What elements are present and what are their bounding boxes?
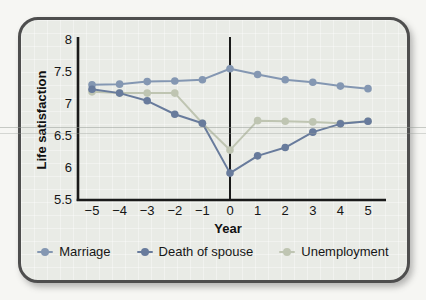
y-tick-label: 8 — [38, 33, 72, 47]
series-marriage-point — [171, 77, 179, 85]
series-marriage-point — [337, 82, 345, 90]
x-tick-label: −5 — [78, 204, 106, 218]
series-unemployment-point — [171, 89, 179, 97]
legend-item-death-of-spouse: Death of spouse — [137, 244, 254, 260]
series-marriage-point — [199, 76, 207, 84]
series-death-of-spouse-point — [88, 85, 96, 93]
unemployment-line-marker-icon — [279, 251, 295, 253]
x-tick-label: 1 — [244, 204, 272, 218]
x-tick-label: 3 — [299, 204, 327, 218]
series-death-of-spouse-point — [364, 117, 372, 125]
series-death-of-spouse-point — [143, 97, 151, 105]
legend-item-unemployment: Unemployment — [279, 244, 388, 260]
series-death-of-spouse-point — [171, 110, 179, 118]
series-unemployment-point — [309, 118, 317, 126]
page: 87.576.565.5−5−4−3−2−1012345 Life satisf… — [0, 0, 426, 300]
series-marriage-point — [254, 71, 262, 79]
series-death-of-spouse-point — [337, 120, 345, 128]
series-death-of-spouse-point — [199, 119, 207, 127]
y-axis-title: Life satisfaction — [34, 59, 50, 181]
x-tick-label: 0 — [216, 204, 244, 218]
chart-legend: Marriage Death of spouse Unemployment — [30, 244, 396, 260]
x-tick-label: 4 — [326, 204, 354, 218]
x-tick-label: −1 — [188, 204, 216, 218]
legend-item-marriage: Marriage — [37, 244, 110, 260]
series-death-of-spouse-point — [226, 169, 234, 177]
x-axis-title: Year — [178, 221, 278, 237]
death-of-spouse-line-marker-icon — [137, 251, 153, 253]
x-tick-label: 2 — [271, 204, 299, 218]
series-marriage-point — [364, 85, 372, 93]
marriage-line-marker-icon — [37, 251, 53, 253]
series-unemployment-point — [254, 117, 262, 125]
series-unemployment-point — [281, 117, 289, 125]
series-marriage-point — [116, 80, 124, 88]
series-death-of-spouse-point — [309, 128, 317, 136]
series-unemployment-point — [143, 89, 151, 97]
series-marriage-point — [281, 76, 289, 84]
y-tick-label: 5.5 — [38, 193, 72, 207]
x-tick-label: −4 — [106, 204, 134, 218]
series-unemployment-point — [226, 146, 234, 154]
x-tick-label: 5 — [354, 204, 382, 218]
series-death-of-spouse-point — [254, 152, 262, 160]
series-marriage-point — [143, 78, 151, 86]
x-tick-label: −3 — [133, 204, 161, 218]
series-death-of-spouse-point — [116, 89, 124, 97]
series-death-of-spouse-point — [281, 144, 289, 152]
series-marriage-point — [226, 65, 234, 73]
series-marriage-point — [309, 78, 317, 86]
legend-label-death-of-spouse: Death of spouse — [159, 244, 254, 260]
x-tick-label: −2 — [161, 204, 189, 218]
legend-label-unemployment: Unemployment — [301, 244, 388, 260]
legend-label-marriage: Marriage — [59, 244, 110, 260]
